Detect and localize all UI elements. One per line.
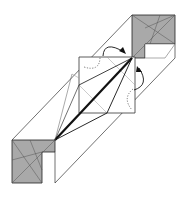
bottom-left-colored-square: [12, 140, 55, 183]
fold-arrow-right: [134, 66, 143, 90]
fold-arrow-top: [103, 47, 126, 56]
origami-diagram: [0, 0, 183, 197]
top-right-colored-square: [132, 15, 175, 58]
